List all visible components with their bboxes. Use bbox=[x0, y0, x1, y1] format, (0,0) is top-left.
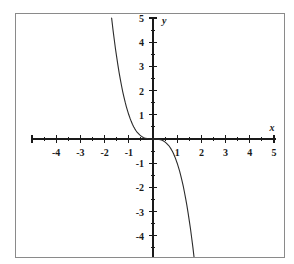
y-axis-tick-label: -2 bbox=[136, 182, 144, 193]
x-axis-tick-label: 3 bbox=[223, 147, 228, 158]
y-axis-tick-label: 5 bbox=[139, 14, 144, 24]
x-axis-tick-label: 4 bbox=[247, 147, 252, 158]
y-axis-label: y bbox=[161, 15, 167, 26]
x-axis-tick-label: -1 bbox=[125, 147, 133, 158]
coordinate-plane: -4-3-2-112345-4-3-2-112345xy bbox=[16, 14, 284, 257]
x-axis-tick-label: 5 bbox=[272, 147, 277, 158]
y-axis-tick-label: 1 bbox=[139, 110, 144, 121]
y-axis-tick-label: 2 bbox=[139, 86, 144, 97]
x-axis-tick-label: -2 bbox=[100, 147, 108, 158]
x-axis-label: x bbox=[269, 122, 275, 133]
x-axis-tick-label: 1 bbox=[175, 147, 180, 158]
graph-figure: -4-3-2-112345-4-3-2-112345xy bbox=[0, 0, 294, 264]
x-axis-tick-label: -4 bbox=[52, 147, 60, 158]
x-axis-tick-label: -3 bbox=[76, 147, 84, 158]
y-axis-tick-label: 3 bbox=[139, 61, 144, 72]
y-axis-tick-label: -1 bbox=[136, 158, 144, 169]
y-axis-tick-label: 4 bbox=[139, 37, 144, 48]
y-axis-tick-label: -4 bbox=[136, 231, 144, 242]
plot-frame: -4-3-2-112345-4-3-2-112345xy bbox=[15, 13, 285, 258]
x-axis-tick-label: 2 bbox=[199, 147, 204, 158]
y-axis-tick-label: -3 bbox=[136, 207, 144, 218]
